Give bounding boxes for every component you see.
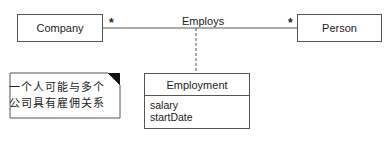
association-name: Employs bbox=[182, 15, 224, 27]
attribute-salary: salary bbox=[150, 99, 178, 111]
note-line-1: 一个人可能与多个 bbox=[9, 80, 105, 96]
class-company[interactable]: Company bbox=[17, 14, 103, 42]
left-multiplicity: * bbox=[109, 16, 114, 30]
class-employment-divider bbox=[145, 95, 249, 96]
attribute-startdate: startDate bbox=[150, 111, 193, 123]
class-person[interactable]: Person bbox=[297, 14, 382, 42]
note-line-2: 公司具有雇佣关系 bbox=[9, 96, 105, 112]
class-employment-name: Employment bbox=[145, 79, 249, 91]
class-person-name: Person bbox=[298, 22, 381, 34]
class-company-name: Company bbox=[18, 22, 102, 34]
right-multiplicity: * bbox=[288, 16, 293, 30]
class-employment[interactable]: Employment salary startDate bbox=[144, 73, 250, 129]
